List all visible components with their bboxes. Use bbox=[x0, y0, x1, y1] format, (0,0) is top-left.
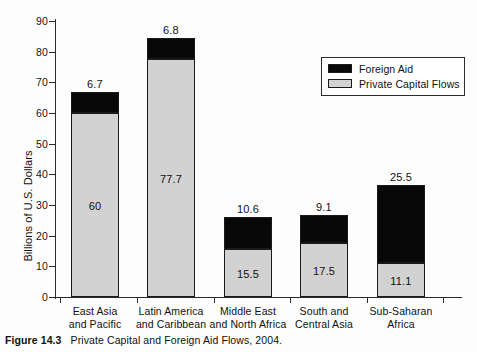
chart-legend: Foreign Aid Private Capital Flows bbox=[321, 57, 465, 96]
y-axis-line bbox=[55, 19, 56, 299]
y-axis-tick-label-wrap: 0 bbox=[0, 292, 48, 302]
y-axis-tick-label-wrap: 20 bbox=[0, 231, 48, 241]
y-axis-tick bbox=[49, 205, 55, 206]
y-axis-tick-label-wrap: 10 bbox=[0, 261, 48, 271]
y-axis-tick-label: 20 bbox=[2, 231, 48, 241]
bar-group: 606.7 bbox=[71, 92, 119, 297]
y-axis-tick-label: 10 bbox=[2, 261, 48, 271]
figure-container: Billions of U.S. Dollars 908070605040302… bbox=[0, 0, 477, 352]
y-axis-tick-label-wrap: 30 bbox=[0, 200, 48, 210]
x-axis-tick bbox=[290, 298, 291, 303]
legend-item-private-capital-flows: Private Capital Flows bbox=[328, 77, 458, 90]
bar-segment-foreign-aid bbox=[300, 215, 348, 243]
y-axis-tick bbox=[49, 266, 55, 267]
x-axis-category-label: Sub-SaharanAfrica bbox=[353, 305, 449, 330]
bar-segment-private-capital-flows: 15.5 bbox=[224, 249, 272, 297]
bar-value-label-private-capital-flows: 15.5 bbox=[225, 268, 271, 280]
x-axis-tick bbox=[443, 298, 444, 303]
bar-value-label-private-capital-flows: 60 bbox=[72, 200, 118, 212]
y-axis-tick-label-wrap: 50 bbox=[0, 139, 48, 149]
bar-value-label-private-capital-flows: 77.7 bbox=[148, 173, 194, 185]
bar-value-label-private-capital-flows: 11.1 bbox=[378, 275, 424, 287]
bar-segment-private-capital-flows: 11.1 bbox=[377, 263, 425, 297]
y-axis-tick-label: 80 bbox=[2, 47, 48, 57]
bar-segment-foreign-aid bbox=[147, 38, 195, 59]
y-axis-tick bbox=[49, 297, 55, 298]
bar-segment-private-capital-flows: 17.5 bbox=[300, 243, 348, 297]
bar-segment-foreign-aid bbox=[377, 185, 425, 263]
bar-group: 77.76.8 bbox=[147, 38, 195, 297]
x-axis-tick bbox=[60, 298, 61, 303]
x-axis-line bbox=[55, 297, 462, 298]
y-axis-tick-label: 90 bbox=[2, 16, 48, 26]
y-axis-tick-label-wrap: 40 bbox=[0, 169, 48, 179]
x-axis-tick bbox=[137, 298, 138, 303]
y-axis-tick bbox=[49, 144, 55, 145]
bar-segment-private-capital-flows: 60 bbox=[71, 113, 119, 297]
x-axis-tick bbox=[367, 298, 368, 303]
figure-caption-label: Figure 14.3 bbox=[5, 334, 62, 346]
y-axis-tick-label-wrap: 80 bbox=[0, 47, 48, 57]
y-axis-tick-label: 70 bbox=[2, 77, 48, 87]
bar-value-label-foreign-aid: 6.7 bbox=[71, 78, 119, 90]
bar-group: 15.510.6 bbox=[224, 217, 272, 297]
y-axis-tick bbox=[49, 21, 55, 22]
x-axis-category-label-line: Africa bbox=[353, 318, 449, 331]
bar-segment-foreign-aid bbox=[224, 217, 272, 250]
y-axis-tick bbox=[49, 82, 55, 83]
y-axis-tick-label: 40 bbox=[2, 169, 48, 179]
legend-label-private-capital-flows: Private Capital Flows bbox=[359, 78, 460, 90]
y-axis-tick-label-wrap: 70 bbox=[0, 77, 48, 87]
bar-value-label-foreign-aid: 25.5 bbox=[377, 171, 425, 183]
x-axis-tick bbox=[214, 298, 215, 303]
bar-segment-private-capital-flows: 77.7 bbox=[147, 59, 195, 297]
y-axis-tick-label-wrap: 60 bbox=[0, 108, 48, 118]
figure-caption: Figure 14.3Private Capital and Foreign A… bbox=[5, 334, 282, 346]
bar-segment-foreign-aid bbox=[71, 92, 119, 113]
bar-value-label-foreign-aid: 9.1 bbox=[300, 201, 348, 213]
legend-swatch-foreign-aid-icon bbox=[328, 64, 352, 73]
y-axis-tick-label: 0 bbox=[2, 292, 48, 302]
legend-label-foreign-aid: Foreign Aid bbox=[359, 63, 413, 75]
bar-value-label-private-capital-flows: 17.5 bbox=[301, 265, 347, 277]
y-axis-tick-label: 30 bbox=[2, 200, 48, 210]
bar-value-label-foreign-aid: 6.8 bbox=[147, 24, 195, 36]
x-axis-category-label-line: Sub-Saharan bbox=[353, 305, 449, 318]
y-axis-tick bbox=[49, 174, 55, 175]
legend-swatch-private-capital-flows-icon bbox=[328, 79, 352, 88]
y-axis-tick bbox=[49, 52, 55, 53]
y-axis-title-container: Billions of U.S. Dollars bbox=[14, 80, 30, 240]
y-axis-tick bbox=[49, 236, 55, 237]
y-axis-tick-label: 50 bbox=[2, 139, 48, 149]
bar-value-label-foreign-aid: 10.6 bbox=[224, 203, 272, 215]
bar-group: 11.125.5 bbox=[377, 185, 425, 297]
y-axis-tick bbox=[49, 113, 55, 114]
y-axis-tick-label: 60 bbox=[2, 108, 48, 118]
y-axis-tick-label-wrap: 90 bbox=[0, 16, 48, 26]
legend-item-foreign-aid: Foreign Aid bbox=[328, 62, 458, 75]
bar-group: 17.59.1 bbox=[300, 215, 348, 297]
figure-caption-text: Private Capital and Foreign Aid Flows, 2… bbox=[71, 334, 283, 346]
